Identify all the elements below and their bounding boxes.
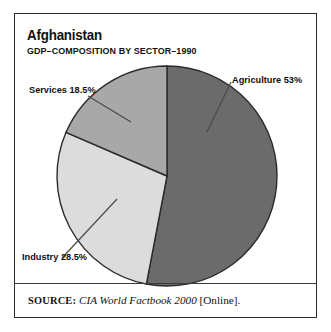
source-note: SOURCE: CIA World Factbook 2000 [Online]… bbox=[28, 294, 240, 306]
source-work-title: CIA World Factbook 2000 bbox=[79, 294, 197, 306]
pie-label-industry: Industry 28.5% bbox=[22, 251, 87, 262]
figure-pie-chart-afghanistan-gdp: Afghanistan GDP–COMPOSITION BY SECTOR–19… bbox=[0, 0, 331, 332]
pie-label-agriculture: Agriculture 53% bbox=[232, 74, 302, 85]
source-medium: [Online]. bbox=[200, 294, 241, 306]
pie-label-services: Services 18.5% bbox=[29, 84, 96, 95]
source-divider bbox=[15, 283, 316, 284]
source-kicker: SOURCE: bbox=[28, 295, 76, 306]
